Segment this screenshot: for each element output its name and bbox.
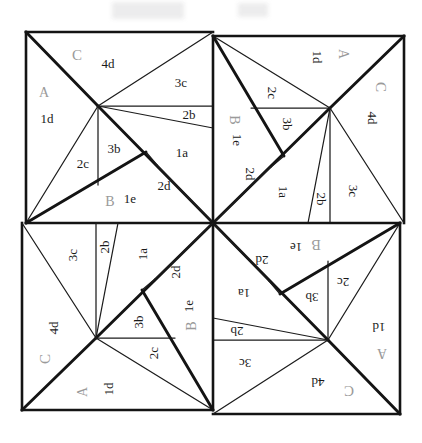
region-label-top-left-1a: 1a: [176, 145, 189, 160]
region-label-top-left-3c: 3c: [175, 75, 188, 90]
region-label-bottom-right-2b: 2b: [231, 324, 244, 339]
region-label-bottom-right-c: C: [344, 383, 354, 399]
region-label-top-left-2c: 2c: [77, 156, 90, 171]
region-label-top-right-3c: 3c: [346, 185, 361, 198]
quadrant-bottom-right: [213, 223, 400, 414]
region-label-top-left-4d: 4d: [102, 56, 116, 71]
region-label-bottom-left-a: A: [75, 386, 90, 397]
region-label-bottom-left-1e: 1e: [181, 300, 196, 313]
quadrant-top-right: [213, 36, 404, 223]
region-label-top-right-b: B: [227, 115, 242, 124]
region-label-top-left-2d: 2d: [158, 178, 172, 193]
region-label-bottom-right-3b: 3b: [306, 290, 319, 305]
region-label-bottom-left-3b: 3b: [131, 316, 146, 329]
region-label-bottom-left-1d: 1d: [101, 382, 116, 396]
region-label-bottom-left-b: B: [184, 321, 199, 330]
region-label-top-right-1a: 1a: [276, 186, 291, 199]
region-label-bottom-left-2d: 2d: [168, 265, 183, 279]
pinwheel-dissection-figure: .edge { fill:none; stroke:#141414; strok…: [0, 0, 422, 443]
region-label-top-right-a: A: [336, 49, 351, 60]
region-label-top-left-1e: 1e: [124, 191, 137, 206]
region-label-top-right-2b: 2b: [314, 193, 329, 206]
region-label-bottom-right-3c: 3c: [239, 356, 252, 371]
region-label-top-right-2c: 2c: [265, 87, 280, 100]
region-label-bottom-left-2b: 2b: [97, 241, 112, 254]
region-label-top-right-c: C: [373, 82, 389, 92]
region-label-bottom-right-2d: 2d: [255, 253, 269, 268]
region-label-bottom-left-4d: 4d: [46, 321, 61, 335]
region-label-bottom-left-2c: 2c: [146, 347, 161, 360]
region-label-top-left-3b: 3b: [108, 141, 121, 156]
region-label-bottom-right-1a: 1a: [238, 286, 251, 301]
region-label-top-left-a: A: [39, 85, 50, 100]
region-label-bottom-right-2c: 2c: [337, 275, 350, 290]
region-label-top-left-2b: 2b: [183, 107, 196, 122]
region-label-top-left-c: C: [72, 47, 82, 63]
quadrant-top-left: [26, 32, 213, 223]
region-label-top-right-2d: 2d: [243, 168, 258, 182]
region-label-bottom-right-b: B: [311, 237, 320, 252]
region-label-bottom-right-1e: 1e: [290, 240, 303, 255]
region-label-top-left-b: B: [105, 194, 114, 209]
region-label-top-left-1d: 1d: [41, 111, 55, 126]
region-label-bottom-right-a: A: [376, 346, 387, 361]
region-label-top-right-4d: 4d: [365, 112, 380, 126]
region-label-bottom-right-1d: 1d: [372, 320, 386, 335]
region-label-bottom-left-c: C: [37, 354, 53, 364]
figure-canvas: .edge { fill:none; stroke:#141414; strok…: [0, 0, 422, 443]
region-label-top-right-1d: 1d: [310, 51, 325, 65]
quadrant-bottom-left: [22, 223, 213, 410]
region-label-bottom-left-1a: 1a: [135, 248, 150, 261]
region-label-top-right-1e: 1e: [230, 134, 245, 147]
region-label-top-right-3b: 3b: [280, 118, 295, 131]
region-label-bottom-left-3c: 3c: [65, 249, 80, 262]
region-label-bottom-right-4d: 4d: [311, 375, 325, 390]
